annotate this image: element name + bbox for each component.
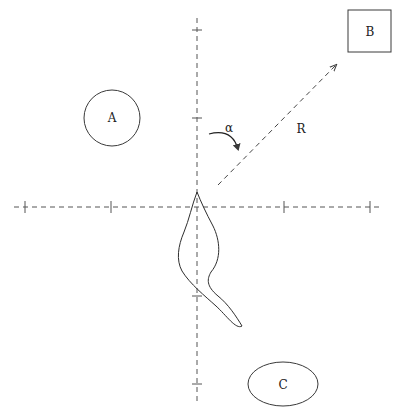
vector-r-label: R [296,122,306,136]
object-a: A [84,90,140,146]
teardrop-shape [178,192,242,327]
angle-alpha: α [209,121,238,149]
vector-r-arrow [218,65,336,185]
object-b-label: B [366,25,375,39]
angle-alpha-arrow [209,133,238,149]
object-c-label: C [278,378,287,392]
vertical-axis [192,18,202,402]
teardrop-outline [178,192,242,327]
diagram-canvas: A B C R α [0,0,401,417]
object-c: C [248,362,318,406]
angle-alpha-label: α [225,121,233,135]
object-b: B [348,10,391,52]
vector-r: R [218,65,336,185]
object-a-label: A [107,111,117,125]
